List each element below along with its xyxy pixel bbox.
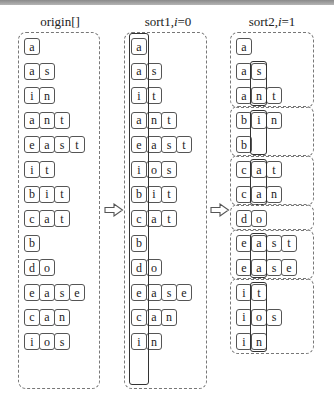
word-row: bin xyxy=(236,112,281,129)
letter-cell: a xyxy=(131,63,147,80)
letter-cell: c xyxy=(24,309,40,326)
letter-cell: n xyxy=(251,87,267,104)
letter-cell: s xyxy=(161,161,177,178)
word-row: bit xyxy=(131,186,176,203)
letter-cell: a xyxy=(39,284,55,301)
letter-cell: s xyxy=(266,259,282,276)
letter-cell: a xyxy=(251,235,267,252)
letter-cell: c xyxy=(131,210,147,227)
word-row: bit xyxy=(24,186,69,203)
letter-cell: n xyxy=(146,112,162,129)
word-row: can xyxy=(236,186,281,203)
letter-cell: e xyxy=(131,284,147,301)
letter-cell: n xyxy=(251,333,267,350)
letter-cell: t xyxy=(161,210,177,227)
letter-cell: s xyxy=(266,309,282,326)
letter-cell: n xyxy=(161,309,177,326)
letter-cell: a xyxy=(24,112,40,129)
word-row: do xyxy=(24,259,54,276)
letter-cell: a xyxy=(39,210,55,227)
letter-cell: b xyxy=(24,186,40,203)
letter-cell: a xyxy=(251,186,267,203)
word-row: it xyxy=(131,87,161,104)
letter-cell: t xyxy=(54,112,70,129)
letter-cell: s xyxy=(266,235,282,252)
letter-cell: e xyxy=(236,235,252,252)
letter-cell: e xyxy=(281,259,297,276)
word-row: do xyxy=(131,259,161,276)
letter-cell: o xyxy=(146,161,162,178)
letter-cell: s xyxy=(54,284,70,301)
right-arrow-icon xyxy=(210,203,230,217)
letter-cell: e xyxy=(24,136,40,153)
word-row: in xyxy=(24,87,54,104)
letter-cell: n xyxy=(146,333,162,350)
word-row: it xyxy=(24,161,54,178)
letter-cell: t xyxy=(281,235,297,252)
letter-cell: a xyxy=(146,284,162,301)
word-row: ease xyxy=(24,284,84,301)
letter-cell: s xyxy=(146,63,162,80)
word-row: a xyxy=(24,38,39,55)
letter-cell: t xyxy=(266,87,282,104)
word-row: ios xyxy=(131,161,176,178)
letter-cell: a xyxy=(146,136,162,153)
word-row: ease xyxy=(236,259,296,276)
word-row: ios xyxy=(236,309,281,326)
letter-cell: t xyxy=(161,186,177,203)
word-row: east xyxy=(236,235,296,252)
letter-cell: n xyxy=(266,112,282,129)
letter-cell: i xyxy=(236,309,252,326)
letter-cell: i xyxy=(24,87,40,104)
letter-cell: e xyxy=(131,136,147,153)
letter-cell: a xyxy=(146,309,162,326)
letter-cell: i xyxy=(24,161,40,178)
letter-cell: d xyxy=(24,259,40,276)
origin-title: origin[] xyxy=(10,14,110,30)
letter-cell: i xyxy=(24,333,40,350)
letter-cell: i xyxy=(39,186,55,203)
word-row: b xyxy=(131,235,146,252)
letter-cell: i xyxy=(131,87,147,104)
letter-cell: i xyxy=(236,284,252,301)
word-row: b xyxy=(24,235,39,252)
word-row: as xyxy=(236,63,266,80)
letter-cell: s xyxy=(251,63,267,80)
word-row: b xyxy=(236,136,251,153)
letter-cell: a xyxy=(251,259,267,276)
letter-cell: n xyxy=(266,186,282,203)
letter-cell: e xyxy=(69,284,85,301)
word-row: can xyxy=(131,309,176,326)
letter-cell: s xyxy=(39,63,55,80)
letter-cell: a xyxy=(24,38,40,55)
letter-cell: s xyxy=(161,136,177,153)
letter-cell: i xyxy=(131,333,147,350)
letter-cell: a xyxy=(131,38,147,55)
word-row: as xyxy=(131,63,161,80)
letter-cell: b xyxy=(236,112,252,129)
letter-cell: o xyxy=(39,333,55,350)
letter-cell: b xyxy=(24,235,40,252)
letter-cell: t xyxy=(251,284,267,301)
letter-cell: o xyxy=(251,210,267,227)
word-row: ant xyxy=(24,112,69,129)
letter-cell: t xyxy=(176,136,192,153)
letter-cell: o xyxy=(39,259,55,276)
letter-cell: d xyxy=(236,210,252,227)
letter-cell: t xyxy=(39,161,55,178)
letter-cell: a xyxy=(236,87,252,104)
letter-cell: i xyxy=(146,186,162,203)
sort2-title: sort2,i=1 xyxy=(222,14,322,30)
word-row: do xyxy=(236,210,266,227)
letter-cell: i xyxy=(236,333,252,350)
letter-cell: o xyxy=(251,309,267,326)
letter-cell: e xyxy=(176,284,192,301)
top-bar xyxy=(0,0,334,5)
letter-cell: b xyxy=(236,136,252,153)
letter-cell: a xyxy=(131,112,147,129)
letter-cell: a xyxy=(236,38,252,55)
word-row: in xyxy=(236,333,266,350)
word-row: ant xyxy=(131,112,176,129)
letter-cell: c xyxy=(236,161,252,178)
letter-cell: b xyxy=(131,235,147,252)
